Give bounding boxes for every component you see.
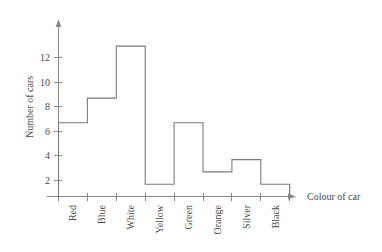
y-tick-label-12: 12 <box>40 52 50 63</box>
y-tick-label-10: 10 <box>40 77 50 88</box>
x-label-silver: Silver <box>241 204 252 229</box>
y-tick-label-4: 4 <box>45 150 50 161</box>
x-axis-title: Colour of car <box>307 191 361 202</box>
x-axis-category-labels: Red Blue White Yellow Green Orange Silve… <box>67 204 280 234</box>
x-label-yellow: Yellow <box>154 204 165 233</box>
bar-chart: 2 4 6 8 10 12 Red Blue White <box>0 0 382 252</box>
bars-group <box>59 46 290 196</box>
x-label-white: White <box>125 204 136 229</box>
y-axis-tick-labels: 2 4 6 8 10 12 <box>40 52 50 186</box>
chart-canvas: 2 4 6 8 10 12 Red Blue White <box>0 0 382 252</box>
x-label-blue: Blue <box>96 204 107 223</box>
y-tick-label-2: 2 <box>45 175 50 186</box>
x-label-green: Green <box>183 205 194 229</box>
y-tick-label-6: 6 <box>45 126 50 137</box>
x-axis-ticks <box>59 186 290 201</box>
y-tick-label-8: 8 <box>45 101 50 112</box>
x-label-black: Black <box>270 205 281 228</box>
histogram-outline <box>59 46 290 196</box>
x-label-orange: Orange <box>212 204 223 234</box>
y-axis-arrow-icon <box>56 19 62 27</box>
x-label-red: Red <box>67 205 78 221</box>
y-axis-title: Number of cars <box>24 76 35 138</box>
x-axis <box>47 194 296 200</box>
